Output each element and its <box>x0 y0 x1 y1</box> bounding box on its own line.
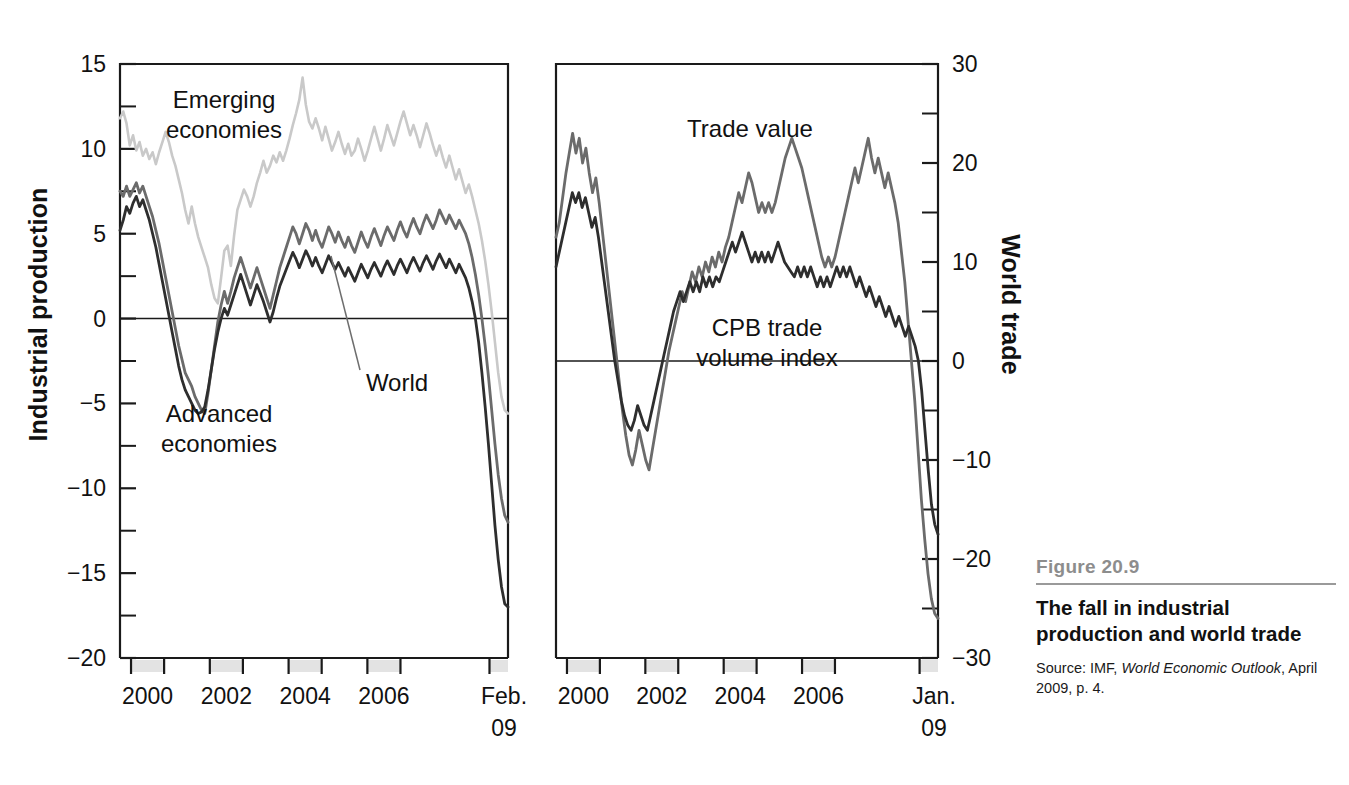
chart-world-trade-xband <box>567 660 600 672</box>
chart-industrial-production-xlabel-3: 2006 <box>358 683 409 709</box>
chart-industrial-production-xband <box>367 660 400 672</box>
chart-world-trade-xlabel-0: 2000 <box>558 683 609 709</box>
chart-industrial-production-xband <box>131 660 164 672</box>
caption-divider <box>1036 583 1336 585</box>
chart-industrial-production-xlabel-year: 09 <box>491 715 517 741</box>
chart-industrial-production-xband <box>289 660 322 672</box>
chart-industrial-production-series-world <box>120 183 508 522</box>
chart-world-trade-ylabel--30: −30 <box>952 645 991 671</box>
chart-industrial-production-xlabel-2: 2004 <box>280 683 331 709</box>
left-chart-label-emerging-line2: economies <box>166 116 282 143</box>
chart-industrial-production-ylabel--10: −10 <box>67 475 106 501</box>
chart-industrial-production-ylabel--5: −5 <box>80 390 106 416</box>
source-prefix: Source: IMF, <box>1036 660 1121 676</box>
chart-world-trade-ylabel-10: 10 <box>952 249 978 275</box>
chart-industrial-production-ylabel-5: 5 <box>93 221 106 247</box>
chart-industrial-production-xband <box>210 660 243 672</box>
figure-caption: Figure 20.9 The fall in industrial produ… <box>1036 556 1336 698</box>
left-chart-label-advanced-line1: Advanced <box>166 400 273 427</box>
chart-world-trade-ylabel--10: −10 <box>952 447 991 473</box>
chart-world-trade-xband <box>724 660 757 672</box>
chart-world-trade-ylabel--20: −20 <box>952 546 991 572</box>
chart-world-trade-xlabel-2: 2004 <box>715 683 766 709</box>
chart-industrial-production-xlabel-0: 2000 <box>122 683 173 709</box>
chart-world-trade-xlabel-1: 2002 <box>636 683 687 709</box>
chart-world-trade-xlabel-3: 2006 <box>793 683 844 709</box>
right-chart-label-trade-value: Trade value <box>687 115 813 142</box>
right-chart-label-cpb-line1: CPB trade <box>712 314 823 341</box>
figure-container: 151050−5−10−15−202000200220042006Feb.093… <box>0 0 1349 785</box>
chart-world-trade-xband <box>920 660 938 672</box>
chart-world-trade-xband <box>645 660 678 672</box>
charts-area: 151050−5−10−15−202000200220042006Feb.093… <box>0 0 1000 785</box>
chart-industrial-production-ylabel--20: −20 <box>67 645 106 671</box>
figure-source: Source: IMF, World Economic Outlook, Apr… <box>1036 658 1336 698</box>
left-chart-y-axis-title: Industrial production <box>24 185 53 445</box>
chart-world-trade-xlabel-year: 09 <box>921 715 947 741</box>
chart-world-trade-xlabel-4: Jan. <box>912 683 955 709</box>
right-chart-y-axis-title: World trade <box>996 175 1025 435</box>
figure-title: The fall in industrial production and wo… <box>1036 595 1336 647</box>
chart-industrial-production-xlabel-1: 2002 <box>201 683 252 709</box>
chart-industrial-production-ylabel-0: 0 <box>93 306 106 332</box>
chart-world-trade-ylabel-0: 0 <box>952 348 965 374</box>
figure-number: Figure 20.9 <box>1036 556 1336 578</box>
right-chart-label-cpb-line2: volume index <box>696 344 837 371</box>
chart-world-trade-ylabel-20: 20 <box>952 150 978 176</box>
chart-world-trade-xband <box>802 660 835 672</box>
chart-industrial-production-xlabel-4: Feb. <box>481 683 527 709</box>
chart-industrial-production-ylabel-15: 15 <box>80 51 106 77</box>
chart-industrial-production-ylabel-10: 10 <box>80 136 106 162</box>
chart-industrial-production-ylabel--15: −15 <box>67 560 106 586</box>
left-chart-label-advanced-line2: economies <box>161 430 277 457</box>
source-publication: World Economic Outlook <box>1121 660 1281 676</box>
charts-svg: 151050−5−10−15−202000200220042006Feb.093… <box>0 0 1000 785</box>
chart-world-trade-ylabel-30: 30 <box>952 51 978 77</box>
chart-world-trade-series-trade-value <box>556 133 938 618</box>
chart-industrial-production-xband <box>489 660 508 672</box>
left-chart-label-emerging-line1: Emerging <box>173 86 276 113</box>
left-chart-label-world: World <box>366 369 428 396</box>
